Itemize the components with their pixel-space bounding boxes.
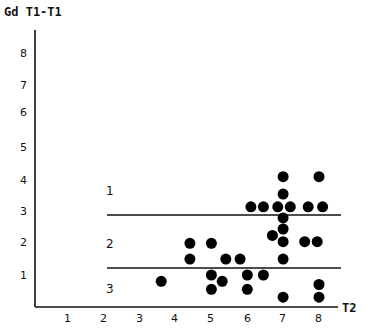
y-tick: 7 xyxy=(20,79,27,92)
data-point xyxy=(235,254,246,265)
y-tick: 1 xyxy=(20,269,27,282)
y-axis-label: Gd T1-T1 xyxy=(4,5,62,19)
x-axis-label: T2 xyxy=(342,301,356,315)
data-point xyxy=(184,254,195,265)
x-tick: 5 xyxy=(207,312,214,325)
y-tick: 5 xyxy=(20,141,27,154)
data-point xyxy=(278,171,289,182)
region-label-2: 2 xyxy=(106,237,114,251)
data-point xyxy=(242,270,253,281)
data-point xyxy=(242,284,253,295)
data-point xyxy=(156,276,167,287)
x-tick: 6 xyxy=(244,312,251,325)
data-point xyxy=(206,238,217,249)
region-label-3: 3 xyxy=(106,282,114,296)
data-point xyxy=(314,292,325,303)
data-point xyxy=(278,292,289,303)
data-point xyxy=(258,201,269,212)
data-point xyxy=(314,171,325,182)
data-point xyxy=(184,238,195,249)
scatter-chart: Gd T1-T1 T2 1 2 3 4 5 6 7 8 1 2 3 4 5 6 … xyxy=(0,0,368,334)
data-points xyxy=(156,171,328,303)
data-point xyxy=(217,276,228,287)
data-point xyxy=(278,236,289,247)
x-tick: 1 xyxy=(64,312,71,325)
data-point xyxy=(303,201,314,212)
x-tick-labels: 1 2 3 4 5 6 7 8 xyxy=(64,312,322,325)
data-point xyxy=(220,254,231,265)
data-point xyxy=(317,201,328,212)
data-point xyxy=(278,189,289,200)
data-point xyxy=(285,201,296,212)
data-point xyxy=(278,212,289,223)
data-point xyxy=(312,236,323,247)
x-tick: 3 xyxy=(136,312,143,325)
x-tick: 7 xyxy=(279,312,286,325)
data-point xyxy=(314,279,325,290)
data-point xyxy=(258,270,269,281)
y-tick: 3 xyxy=(20,205,27,218)
data-point xyxy=(299,236,310,247)
x-tick: 8 xyxy=(315,312,322,325)
x-tick: 4 xyxy=(171,312,178,325)
y-tick: 2 xyxy=(20,236,27,249)
data-point xyxy=(278,254,289,265)
data-point xyxy=(272,201,283,212)
data-point xyxy=(278,224,289,235)
data-point xyxy=(206,270,217,281)
y-tick: 6 xyxy=(20,106,27,119)
data-point xyxy=(245,201,256,212)
y-tick-labels: 1 2 3 4 5 6 7 8 xyxy=(20,47,27,282)
x-tick: 2 xyxy=(100,312,107,325)
y-tick: 8 xyxy=(20,47,27,60)
region-label-1: 1 xyxy=(106,184,114,198)
data-point xyxy=(206,284,217,295)
data-point xyxy=(267,230,278,241)
y-tick: 4 xyxy=(20,174,27,187)
